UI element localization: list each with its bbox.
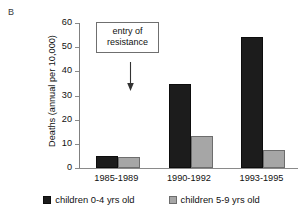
bar-1990-1992-children-0-4 [169, 84, 191, 168]
bar-1985-1989-children-5-9 [118, 157, 140, 168]
y-tick-label-6: 60 [62, 17, 72, 28]
y-tick-label-5: 50 [62, 41, 72, 52]
x-tick-label-1993-1995: 1993-1995 [225, 173, 298, 184]
figure-panel: B Deaths (annual per 10,000) 0 10 20 30 … [0, 0, 303, 214]
y-tick-6: 60 [75, 23, 79, 24]
y-tick-label-2: 20 [62, 114, 72, 125]
y-tick-1: 10 [75, 144, 79, 145]
y-tick-label-0: 0 [67, 162, 72, 173]
y-tick-4: 40 [75, 71, 79, 72]
y-tick-label-3: 30 [62, 90, 72, 101]
bar-1985-1989-children-0-4 [96, 156, 118, 168]
bar-1990-1992-children-5-9 [191, 136, 213, 168]
x-tick-label-1985-1989: 1985-1989 [80, 173, 153, 184]
y-axis-title: Deaths (annual per 10,000) [47, 16, 57, 166]
annotation-entry-of-resistance: entry of resistance [96, 22, 159, 53]
legend-swatch-icon [169, 196, 177, 204]
legend-item-children-0-4: children 0-4 yrs old [43, 194, 134, 205]
bar-group [225, 23, 298, 168]
y-tick-2: 20 [75, 120, 79, 121]
legend: children 0-4 yrs old children 5-9 yrs ol… [0, 194, 303, 205]
panel-label: B [8, 7, 14, 17]
legend-label-children-0-4: children 0-4 yrs old [55, 194, 134, 205]
y-tick-label-1: 10 [62, 138, 72, 149]
y-tick-3: 30 [75, 96, 79, 97]
x-tick-label-1990-1992: 1990-1992 [153, 173, 226, 184]
legend-label-children-5-9: children 5-9 yrs old [181, 194, 260, 205]
down-arrow-icon [126, 62, 135, 92]
y-tick-0: 0 [75, 168, 79, 169]
x-axis-line [79, 168, 298, 169]
bar-1993-1995-children-5-9 [263, 150, 285, 168]
annotation-line-1: entry of [99, 26, 156, 37]
y-tick-label-4: 40 [62, 65, 72, 76]
bar-1993-1995-children-0-4 [241, 37, 263, 168]
annotation-line-2: resistance [99, 37, 156, 48]
legend-swatch-icon [43, 196, 51, 204]
y-tick-5: 50 [75, 47, 79, 48]
legend-item-children-5-9: children 5-9 yrs old [169, 194, 260, 205]
bar-group [153, 23, 226, 168]
